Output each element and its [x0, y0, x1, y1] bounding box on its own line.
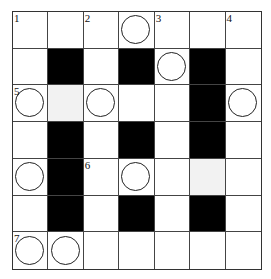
crossword-cell[interactable]: [13, 159, 48, 196]
crossword-cell[interactable]: [13, 196, 48, 233]
crossword-cell[interactable]: 6: [84, 159, 119, 196]
black-cell: [48, 122, 83, 159]
clue-number: 4: [227, 12, 233, 24]
crossword-cell[interactable]: [119, 159, 154, 196]
black-cell: [48, 49, 83, 86]
crossword-cell[interactable]: [226, 85, 261, 122]
crossword-cell[interactable]: [226, 232, 261, 269]
crossword-cell[interactable]: [190, 12, 225, 49]
black-cell: [119, 122, 154, 159]
crossword-cell[interactable]: 3: [155, 12, 190, 49]
circle-marker-icon: [121, 15, 150, 44]
crossword-cell[interactable]: [48, 232, 83, 269]
circle-marker-icon: [51, 236, 80, 265]
clue-number: 6: [85, 159, 91, 171]
crossword-cell[interactable]: [190, 159, 225, 196]
crossword-cell[interactable]: 4: [226, 12, 261, 49]
clue-number: 2: [85, 12, 91, 24]
crossword-cell[interactable]: [48, 85, 83, 122]
black-cell: [190, 85, 225, 122]
crossword-cell[interactable]: [84, 196, 119, 233]
crossword-cell[interactable]: [155, 85, 190, 122]
crossword-cell[interactable]: [84, 49, 119, 86]
crossword-cell[interactable]: [84, 232, 119, 269]
clue-number: 3: [156, 12, 162, 24]
crossword-cell[interactable]: [84, 122, 119, 159]
crossword-cell[interactable]: 2: [84, 12, 119, 49]
black-cell: [190, 122, 225, 159]
black-cell: [190, 196, 225, 233]
circle-marker-icon: [228, 88, 257, 117]
crossword-cell[interactable]: [226, 122, 261, 159]
crossword-cell[interactable]: [155, 196, 190, 233]
circle-marker-icon: [157, 52, 186, 81]
circle-marker-icon: [15, 162, 44, 191]
crossword-cell[interactable]: [155, 122, 190, 159]
black-cell: [48, 196, 83, 233]
clue-number: 1: [14, 12, 20, 24]
black-cell: [190, 49, 225, 86]
crossword-grid: 1234567: [12, 11, 262, 270]
circle-marker-icon: [86, 88, 115, 117]
clue-number: 7: [14, 232, 20, 244]
crossword-cell[interactable]: [155, 159, 190, 196]
crossword-cell[interactable]: [48, 12, 83, 49]
crossword-cell[interactable]: [155, 49, 190, 86]
crossword-cell[interactable]: [226, 159, 261, 196]
crossword-cell[interactable]: 1: [13, 12, 48, 49]
crossword-cell[interactable]: [84, 85, 119, 122]
black-cell: [48, 159, 83, 196]
crossword-cell[interactable]: [13, 122, 48, 159]
crossword-cell[interactable]: [119, 85, 154, 122]
crossword-cell[interactable]: 7: [13, 232, 48, 269]
crossword-cell[interactable]: [155, 232, 190, 269]
crossword-cell[interactable]: [226, 196, 261, 233]
circle-marker-icon: [121, 162, 150, 191]
black-cell: [119, 49, 154, 86]
crossword-cell[interactable]: [226, 49, 261, 86]
black-cell: [119, 196, 154, 233]
crossword-cell[interactable]: [13, 49, 48, 86]
crossword-cell[interactable]: [119, 232, 154, 269]
crossword-cell[interactable]: [190, 232, 225, 269]
clue-number: 5: [14, 85, 20, 97]
crossword-cell[interactable]: 5: [13, 85, 48, 122]
crossword-cell[interactable]: [119, 12, 154, 49]
